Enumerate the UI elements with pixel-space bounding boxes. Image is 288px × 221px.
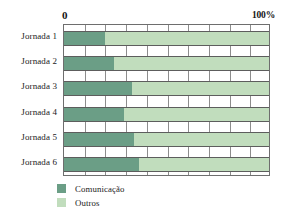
bar-segment-outros: [112, 56, 269, 70]
bar-segment-comunicacao: [64, 157, 139, 171]
axis-min-label: 0: [62, 9, 68, 21]
bar-segment-outros: [122, 107, 269, 121]
bar-row: [64, 157, 269, 171]
legend-label: Comunicação: [75, 184, 124, 194]
row-separator: [64, 146, 269, 147]
bar-segment-comunicacao: [64, 81, 132, 95]
bar-stack: [64, 157, 269, 171]
bar-segment-outros: [137, 157, 269, 171]
bar-row: [64, 31, 269, 45]
category-axis: Jornada 1Jornada 2Jornada 3Jornada 4Jorn…: [0, 24, 60, 176]
row-separator: [64, 132, 269, 133]
category-label: Jornada 1: [21, 31, 57, 41]
legend-item[interactable]: Outros: [57, 196, 217, 209]
row-separator: [64, 56, 269, 57]
bar-stack: [64, 56, 269, 70]
plot-area: [63, 24, 270, 176]
bar-segment-outros: [103, 31, 269, 45]
bar-segment-comunicacao: [64, 107, 124, 121]
category-label: Jornada 3: [21, 81, 57, 91]
bar-segment-outros: [132, 132, 269, 146]
row-separator: [64, 121, 269, 122]
axis-max-label: 100%: [252, 10, 275, 20]
category-label: Jornada 6: [21, 157, 57, 167]
bar-row: [64, 81, 269, 95]
stacked-bar-chart: 0 100% Jornada 1Jornada 2Jornada 3Jornad…: [0, 0, 288, 221]
legend-label: Outros: [75, 198, 100, 208]
row-separator: [64, 171, 269, 172]
row-separator: [64, 95, 269, 96]
bar-stack: [64, 107, 269, 121]
bar-stack: [64, 81, 269, 95]
bar-segment-outros: [130, 81, 269, 95]
category-label: Jornada 4: [21, 107, 57, 117]
row-separator: [64, 45, 269, 46]
row-separator: [64, 157, 269, 158]
row-separator: [64, 81, 269, 82]
row-separator: [64, 31, 269, 32]
row-separator: [64, 107, 269, 108]
category-label: Jornada 5: [21, 132, 57, 142]
bar-row: [64, 132, 269, 146]
legend: ComunicaçãoOutros: [57, 182, 217, 210]
bar-stack: [64, 31, 269, 45]
row-separator: [64, 70, 269, 71]
category-label: Jornada 2: [21, 56, 57, 66]
bar-stack: [64, 132, 269, 146]
bar-row: [64, 107, 269, 121]
legend-swatch-icon: [57, 184, 66, 193]
bar-rows: [64, 25, 269, 175]
bar-segment-comunicacao: [64, 56, 114, 70]
bar-row: [64, 56, 269, 70]
legend-swatch-icon: [57, 198, 66, 207]
legend-item[interactable]: Comunicação: [57, 182, 217, 195]
bar-segment-comunicacao: [64, 31, 105, 45]
bar-segment-comunicacao: [64, 132, 134, 146]
